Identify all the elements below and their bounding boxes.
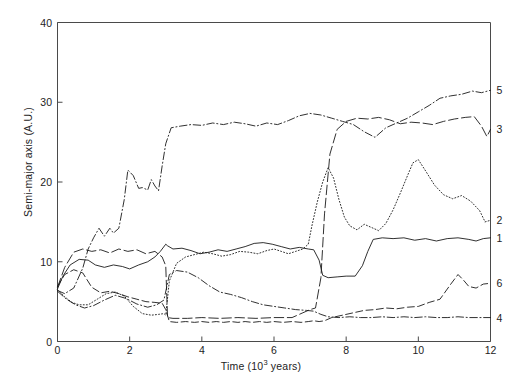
series-line-1 bbox=[58, 238, 491, 289]
x-tick-label-8: 8 bbox=[326, 344, 366, 356]
series-line-2 bbox=[58, 160, 491, 316]
series-line-6 bbox=[58, 270, 491, 323]
plot-canvas bbox=[0, 0, 522, 380]
x-axis-title-suffix: years) bbox=[268, 360, 302, 372]
x-tick-label-0: 0 bbox=[38, 344, 78, 356]
series-line-4 bbox=[58, 271, 491, 318]
x-tick-label-12: 12 bbox=[471, 344, 511, 356]
series-line-3 bbox=[58, 117, 491, 319]
series-label-2: 2 bbox=[497, 214, 503, 226]
series-line-5 bbox=[58, 90, 491, 293]
x-tick-label-4: 4 bbox=[182, 344, 222, 356]
series-label-4: 4 bbox=[497, 312, 503, 324]
y-tick-label-10: 10 bbox=[18, 256, 52, 268]
x-axis-title: Time (103 years) bbox=[0, 358, 522, 372]
series-label-5: 5 bbox=[497, 84, 503, 96]
y-tick-label-40: 40 bbox=[18, 17, 52, 29]
y-axis-title: Semi-major axis (A.U.) bbox=[22, 82, 34, 242]
x-tick-label-2: 2 bbox=[110, 344, 150, 356]
x-axis-title-prefix: Time (10 bbox=[221, 360, 264, 372]
x-tick-label-10: 10 bbox=[398, 344, 438, 356]
plot-frame bbox=[58, 23, 491, 342]
chart-figure: 010203040 024681012 123456 Semi-major ax… bbox=[0, 0, 522, 380]
series-label-3: 3 bbox=[497, 123, 503, 135]
series-label-1: 1 bbox=[497, 232, 503, 244]
series-label-6: 6 bbox=[497, 277, 503, 289]
x-tick-label-6: 6 bbox=[254, 344, 294, 356]
